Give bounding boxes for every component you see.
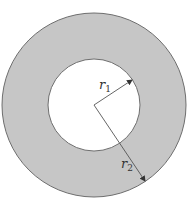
annulus-diagram: r1 r2 <box>0 0 192 213</box>
